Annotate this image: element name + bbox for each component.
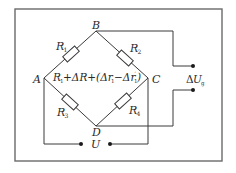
output-voltage-label: Δ U g [186, 73, 205, 87]
resistor-label-r4: R 4 [128, 104, 141, 117]
svg-text:): ) [136, 71, 141, 83]
output-terminal-top [191, 64, 195, 68]
svg-text:1: 1 [64, 46, 68, 53]
svg-text:+ΔR+(Δr: +ΔR+(Δr [63, 71, 114, 83]
resistor-label-r3: R 3 [56, 106, 69, 119]
output-terminal-bottom [191, 88, 195, 92]
resistor-label-r1: R 1 [55, 40, 67, 53]
node-label-b: B [91, 19, 100, 32]
node-label-c: C [152, 73, 161, 86]
center-expression: R 1 +ΔR+(Δr 1 −Δr ′ 1 ) [52, 70, 141, 84]
diagram-frame [15, 9, 222, 161]
wire-B-output [96, 31, 193, 66]
supply-terminal-left [79, 142, 83, 146]
svg-text:2: 2 [138, 48, 142, 55]
resistor-label-r2: R 2 [129, 42, 142, 55]
node-label-a: A [32, 73, 41, 86]
bridge-circuit-diagram: B A C D R 1 R 2 R 3 R 4 R 1 +ΔR+(Δr 1 −Δ… [0, 0, 236, 173]
svg-text:g: g [201, 80, 205, 87]
svg-text:3: 3 [65, 112, 69, 119]
supply-terminal-right [108, 142, 112, 146]
wire-D-output [96, 90, 193, 126]
supply-voltage-label: U [91, 138, 101, 151]
svg-text:4: 4 [137, 110, 141, 117]
